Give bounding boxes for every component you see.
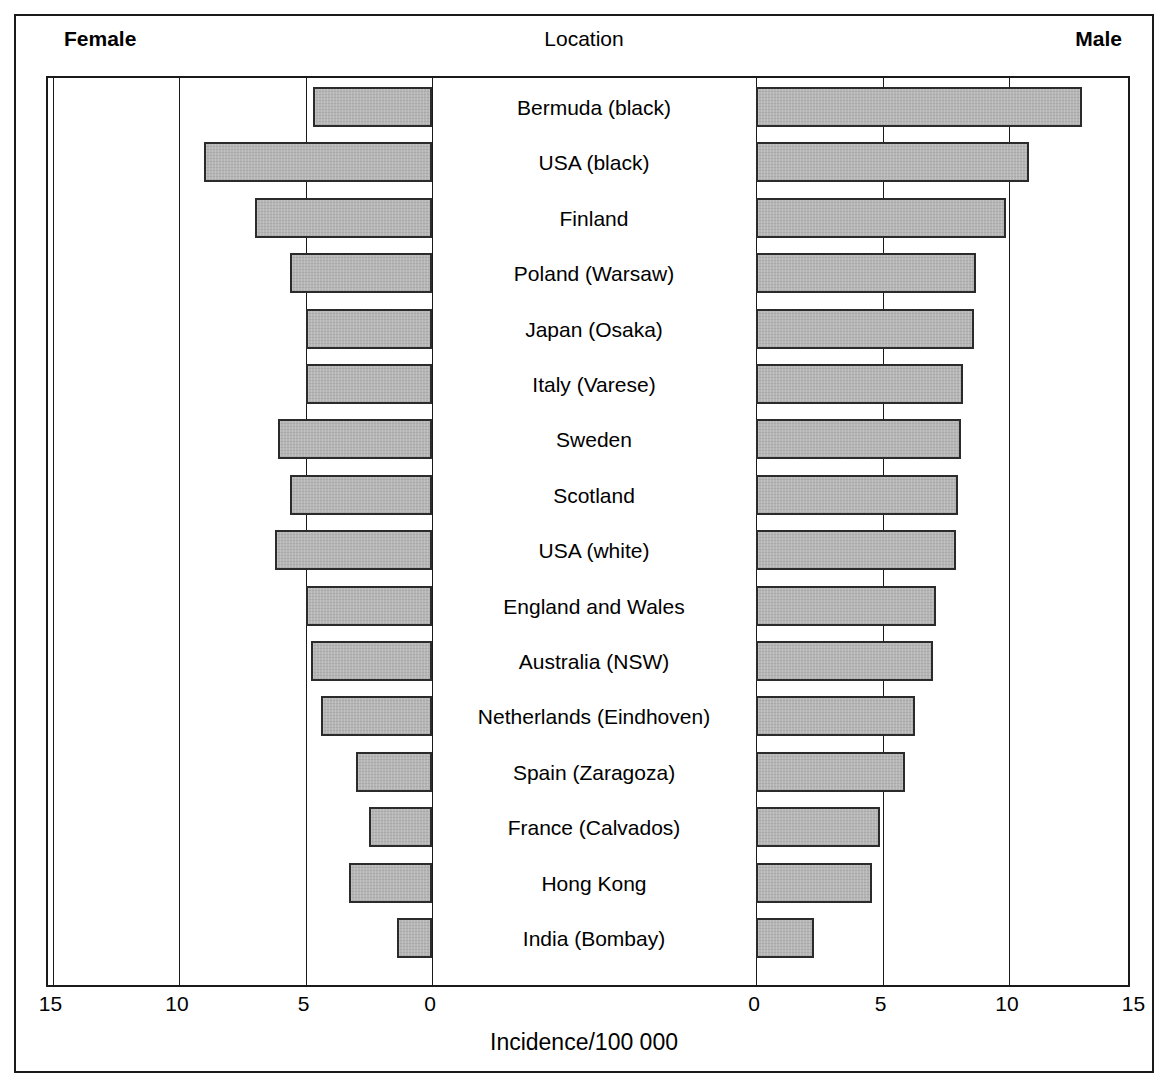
bar-male <box>756 142 1029 182</box>
chart-row: Bermuda (black) <box>48 80 1128 135</box>
bar-female <box>356 752 432 792</box>
chart-header: Female Location Male <box>16 16 1152 62</box>
chart-row: Scotland <box>48 468 1128 523</box>
bar-male <box>756 309 974 349</box>
bar-male <box>756 198 1006 238</box>
bar-female <box>255 198 432 238</box>
tick-label-male-10: 10 <box>995 991 1018 1017</box>
x-axis-tick-labels: 151050051015 <box>16 991 1152 1027</box>
chart-row: Hong Kong <box>48 856 1128 911</box>
chart-row: Spain (Zaragoza) <box>48 745 1128 800</box>
tick-label-male-15: 15 <box>1122 991 1145 1017</box>
chart-row: India (Bombay) <box>48 911 1128 966</box>
chart-row: USA (black) <box>48 135 1128 190</box>
tick-label-male-0: 0 <box>748 991 760 1017</box>
bar-male <box>756 918 814 958</box>
bar-female <box>278 419 432 459</box>
bar-female <box>397 918 432 958</box>
chart-row: Poland (Warsaw) <box>48 246 1128 301</box>
chart-row: Japan (Osaka) <box>48 302 1128 357</box>
bar-female <box>275 530 432 570</box>
bar-female <box>311 641 432 681</box>
row-label: Netherlands (Eindhoven) <box>434 689 754 744</box>
row-label: Finland <box>434 191 754 246</box>
chart-row: USA (white) <box>48 523 1128 578</box>
bar-female <box>306 364 433 404</box>
chart-row: Finland <box>48 191 1128 246</box>
bar-female <box>313 87 432 127</box>
row-label: Italy (Varese) <box>434 357 754 412</box>
row-label: Spain (Zaragoza) <box>434 745 754 800</box>
bar-male <box>756 364 963 404</box>
bar-male <box>756 530 956 570</box>
row-label: USA (white) <box>434 523 754 578</box>
row-label: India (Bombay) <box>434 911 754 966</box>
row-label: USA (black) <box>434 135 754 190</box>
chart-row: Sweden <box>48 412 1128 467</box>
bar-male <box>756 586 936 626</box>
row-label: Bermuda (black) <box>434 80 754 135</box>
tick-label-male-5: 5 <box>875 991 887 1017</box>
figure-frame: Female Location Male Bermuda (black)USA … <box>14 14 1154 1073</box>
plot-area: Bermuda (black)USA (black)FinlandPoland … <box>46 76 1130 987</box>
bar-female <box>321 696 432 736</box>
bar-female <box>306 309 433 349</box>
bar-male <box>756 807 880 847</box>
chart-row: Italy (Varese) <box>48 357 1128 412</box>
bar-female <box>369 807 432 847</box>
male-side-label: Male <box>1075 28 1122 50</box>
bar-male <box>756 696 915 736</box>
tick-label-female-5: 5 <box>298 991 310 1017</box>
bar-male <box>756 863 872 903</box>
bar-male <box>756 419 961 459</box>
bar-female <box>306 586 433 626</box>
tick-label-female-0: 0 <box>424 991 436 1017</box>
location-column-label: Location <box>16 28 1152 50</box>
bar-female <box>290 253 432 293</box>
row-label: Scotland <box>434 468 754 523</box>
bar-female <box>290 475 432 515</box>
row-label: Australia (NSW) <box>434 634 754 689</box>
bar-female <box>204 142 432 182</box>
chart-row: France (Calvados) <box>48 800 1128 855</box>
chart-row: Australia (NSW) <box>48 634 1128 689</box>
tick-label-female-15: 15 <box>39 991 62 1017</box>
row-label: Poland (Warsaw) <box>434 246 754 301</box>
bar-male <box>756 87 1082 127</box>
tick-label-female-10: 10 <box>165 991 188 1017</box>
row-label: Hong Kong <box>434 856 754 911</box>
row-label: France (Calvados) <box>434 800 754 855</box>
bar-male <box>756 253 976 293</box>
x-axis-title: Incidence/100 000 <box>16 1028 1152 1056</box>
row-label: Sweden <box>434 412 754 467</box>
plot-surface: Bermuda (black)USA (black)FinlandPoland … <box>48 78 1128 985</box>
bar-male <box>756 641 933 681</box>
chart-row: Netherlands (Eindhoven) <box>48 689 1128 744</box>
row-label: England and Wales <box>434 579 754 634</box>
row-label: Japan (Osaka) <box>434 302 754 357</box>
chart-row: England and Wales <box>48 579 1128 634</box>
bar-male <box>756 752 905 792</box>
bar-male <box>756 475 958 515</box>
bar-female <box>349 863 432 903</box>
